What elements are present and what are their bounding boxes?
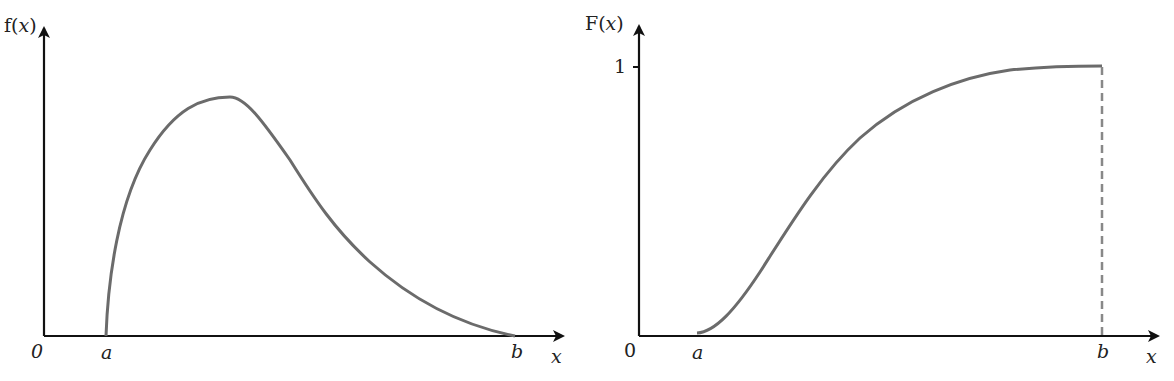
cdf-chart: F(x) 1 0 a b x [585, 12, 1158, 367]
cdf-xlabel: x [1146, 345, 1157, 367]
pdf-chart: f(x) 0 a b x [4, 14, 563, 367]
pdf-b-label: b [511, 340, 523, 362]
pdf-curve [106, 97, 515, 336]
pdf-ylabel: f(x) [4, 14, 37, 36]
cdf-b-label: b [1097, 340, 1109, 362]
cdf-curve [697, 66, 1102, 333]
cdf-origin-label: 0 [624, 339, 636, 361]
pdf-origin-label: 0 [31, 340, 43, 362]
cdf-a-label: a [692, 341, 703, 363]
diagram-canvas: f(x) 0 a b x F(x) 1 0 a b x [0, 0, 1174, 381]
pdf-xlabel: x [551, 345, 562, 367]
cdf-ytick-1-label: 1 [614, 55, 626, 77]
distribution-diagrams: f(x) 0 a b x F(x) 1 0 a b x [0, 0, 1174, 381]
cdf-ylabel: F(x) [585, 12, 624, 34]
pdf-a-label: a [101, 341, 112, 363]
